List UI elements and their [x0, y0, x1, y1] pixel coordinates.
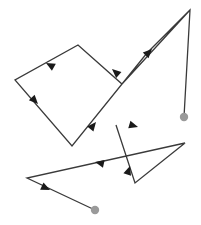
path-a-arrow-2-icon: [109, 66, 121, 78]
path-b-arrow-1-icon: [128, 121, 139, 131]
polyline-paths-svg: [0, 0, 201, 225]
path-lines-group: [15, 10, 190, 210]
path-a-line: [15, 10, 190, 146]
path-b-line: [27, 125, 185, 210]
diagram-canvas: [0, 0, 201, 225]
endpoint-dot-bottom: [91, 206, 99, 214]
path-a-arrow-4-icon: [29, 95, 41, 107]
endpoint-dot-right: [180, 113, 188, 121]
endpoint-dots-group: [91, 113, 188, 214]
